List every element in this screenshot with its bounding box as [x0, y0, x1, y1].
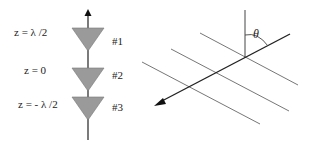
- element-id-2: #2: [112, 69, 123, 81]
- element-1-triangle: [72, 28, 104, 51]
- diagram-canvas: [0, 0, 312, 147]
- z-label-2: z = 0: [24, 64, 46, 76]
- direction-arrow-line: [160, 34, 290, 102]
- z-label-3: z = - λ /2: [18, 98, 58, 110]
- element-3-triangle: [72, 97, 104, 120]
- element-id-1: #1: [112, 35, 123, 47]
- wavefront-line-3: [142, 62, 260, 124]
- element-id-3: #3: [112, 101, 123, 113]
- array-arrow-icon: [85, 9, 92, 16]
- theta-label: θ: [253, 27, 259, 42]
- z-label-1: z = λ /2: [14, 26, 47, 38]
- wavefront-line-2: [171, 49, 289, 111]
- element-2-triangle: [72, 68, 104, 91]
- wavefront-line-1: [200, 33, 298, 85]
